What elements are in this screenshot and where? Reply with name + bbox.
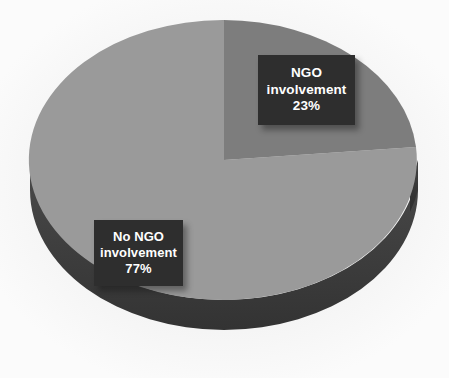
ngo-callout-label: NGO involvement 23% bbox=[258, 55, 355, 125]
ngo-callout-value: 23% bbox=[293, 98, 320, 114]
no-ngo-callout-label: No NGO involvement 77% bbox=[94, 220, 183, 286]
no-ngo-callout-line-2: involvement bbox=[100, 245, 177, 261]
no-ngo-callout-line-1: No NGO bbox=[113, 229, 164, 245]
ngo-callout-line-1: NGO bbox=[291, 65, 322, 81]
no-ngo-callout-value: 77% bbox=[125, 261, 151, 277]
pie-chart-figure: NGO involvement 23% No NGO involvement 7… bbox=[0, 0, 449, 378]
ngo-callout-line-2: involvement bbox=[267, 82, 347, 98]
pie-chart-graphic bbox=[0, 0, 449, 378]
